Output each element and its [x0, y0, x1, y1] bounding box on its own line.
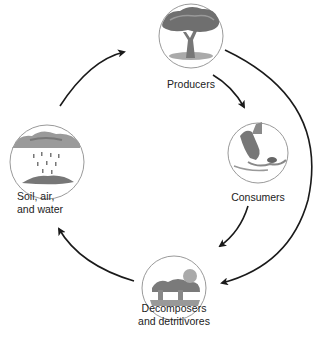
consumers-label: Consumers [218, 191, 298, 204]
soil-air-water-label: Soil, air, and water [17, 190, 77, 215]
arrow-soil-to-producers [60, 52, 124, 106]
arrow-consumers-to-decomposers [220, 206, 248, 246]
producers-label: Producers [151, 78, 231, 91]
producers-node [159, 4, 223, 68]
soil-air-water-node [10, 125, 84, 199]
consumers-node [228, 122, 288, 183]
arrow-decomposers-to-soil [59, 229, 134, 281]
cycle-diagram [0, 0, 325, 338]
decomposers-label: Decomposers and detritivores [124, 302, 224, 327]
